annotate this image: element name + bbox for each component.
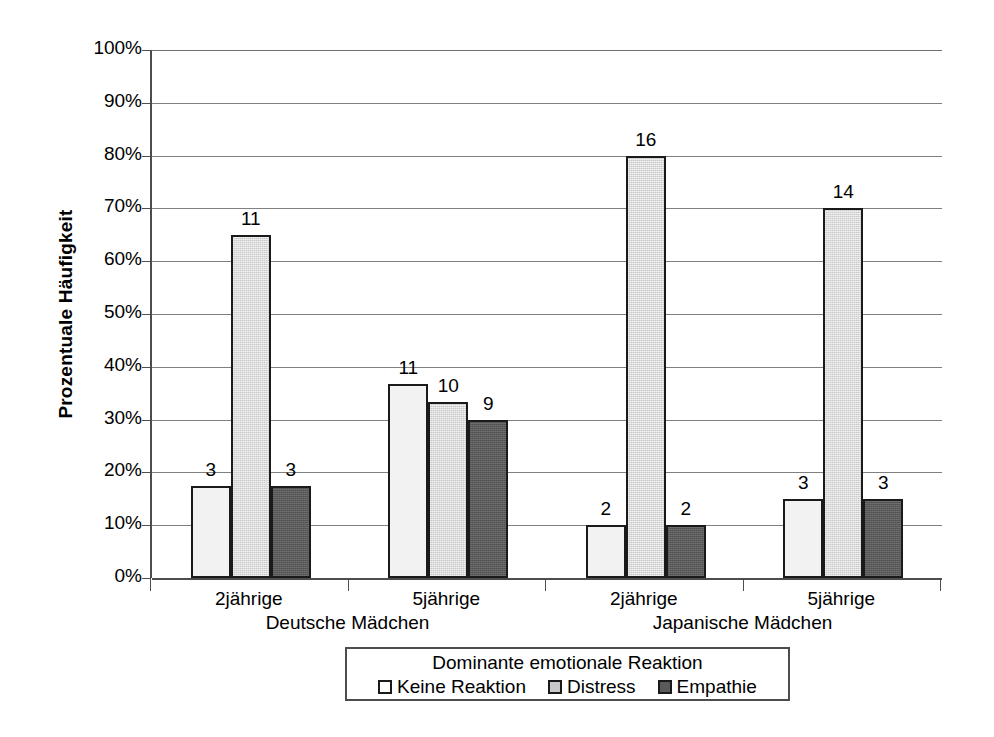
legend-title: Dominante emotionale Reaktion: [432, 651, 702, 675]
bar-value-label: 16: [614, 129, 678, 151]
y-axis-tick-mark: [142, 208, 151, 209]
x-axis-tick-mark: [348, 578, 349, 591]
x-axis-category-label: 5jährige: [751, 588, 931, 610]
x-axis-tick-mark: [940, 578, 941, 591]
bar: [388, 384, 428, 578]
bar: [271, 486, 311, 578]
y-axis-tick-label: 0%: [66, 565, 142, 587]
y-axis-tick-mark: [142, 156, 151, 157]
legend-item: Empathie: [658, 675, 757, 699]
bar-value-label: 3: [259, 459, 323, 481]
y-axis-tick-label: 10%: [66, 512, 142, 534]
y-axis-tick-mark: [142, 472, 151, 473]
axis-baseline: [152, 578, 942, 580]
y-axis-tick-mark: [142, 103, 151, 104]
x-axis-tick-mark: [150, 578, 151, 591]
y-axis-tick-label: 20%: [66, 459, 142, 481]
x-axis-group-label: Deutsche Mädchen: [198, 612, 498, 634]
y-axis-tick-mark: [142, 578, 151, 579]
y-axis-tick-mark: [142, 261, 151, 262]
y-axis-tick-mark: [142, 525, 151, 526]
gridline: [152, 156, 942, 157]
bar: [863, 499, 903, 578]
legend-swatch-icon: [658, 680, 672, 694]
y-axis-tick-mark: [142, 50, 151, 51]
y-axis-tick-mark: [142, 420, 151, 421]
legend-swatch-icon: [548, 680, 562, 694]
bar: [191, 486, 231, 578]
bar: [468, 420, 508, 578]
chart-figure: Prozentuale Häufigkeit 0%10%20%30%40%50%…: [0, 0, 994, 737]
bar-value-label: 11: [219, 208, 283, 230]
bar: [783, 499, 823, 578]
y-axis-tick-label: 60%: [66, 248, 142, 270]
gridline: [152, 103, 942, 104]
legend-item-label: Distress: [567, 675, 636, 699]
gridline: [152, 50, 942, 51]
y-axis-tick-labels: 0%10%20%30%40%50%60%70%80%90%100%: [66, 0, 142, 737]
y-axis-tick-label: 30%: [66, 407, 142, 429]
x-axis-tick-mark: [545, 578, 546, 591]
y-axis-tick-label: 80%: [66, 143, 142, 165]
plot-area: 31131110921623143: [150, 50, 940, 578]
bar: [231, 235, 271, 578]
bar-value-label: 9: [456, 393, 520, 415]
x-axis-group-label: Japanische Mädchen: [593, 612, 893, 634]
x-axis-tick-mark: [743, 578, 744, 591]
legend: Dominante emotionale Reaktion Keine Reak…: [345, 647, 790, 701]
bar: [428, 402, 468, 578]
legend-items: Keine ReaktionDistressEmpathie: [378, 675, 757, 699]
bar: [666, 525, 706, 578]
legend-item: Keine Reaktion: [378, 675, 526, 699]
y-axis-tick-mark: [142, 314, 151, 315]
y-axis-tick-label: 40%: [66, 354, 142, 376]
legend-swatch-icon: [378, 680, 392, 694]
legend-item-label: Keine Reaktion: [397, 675, 526, 699]
y-axis-tick-label: 50%: [66, 301, 142, 323]
bar-value-label: 14: [811, 181, 875, 203]
y-axis-tick-label: 70%: [66, 195, 142, 217]
bar-value-label: 3: [851, 472, 915, 494]
x-axis-category-label: 2jährige: [159, 588, 339, 610]
legend-item-label: Empathie: [677, 675, 757, 699]
bar-value-label: 2: [654, 498, 718, 520]
y-axis-tick-label: 90%: [66, 90, 142, 112]
bar: [823, 208, 863, 578]
y-axis-tick-mark: [142, 367, 151, 368]
x-axis-category-label: 5jährige: [356, 588, 536, 610]
bar: [586, 525, 626, 578]
legend-item: Distress: [548, 675, 636, 699]
y-axis-tick-label: 100%: [66, 37, 142, 59]
x-axis-category-label: 2jährige: [554, 588, 734, 610]
